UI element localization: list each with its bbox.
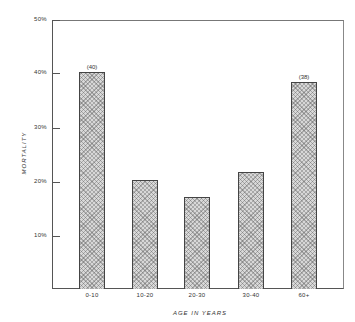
bar-annotation-0-10: (40) [77, 64, 107, 70]
bar-20-30 [184, 197, 210, 289]
ytick-30 [52, 128, 60, 129]
ytick-20 [52, 182, 60, 183]
xtick-label-10-20: 10-20 [125, 292, 165, 298]
ytick-label-10: 10% [17, 232, 47, 238]
x-axis-title: AGE IN YEARS [160, 310, 240, 316]
ytick-label-50: 50% [17, 16, 47, 22]
ytick-10 [52, 236, 60, 237]
bar-60-plus [291, 82, 317, 289]
bar-10-20 [132, 180, 158, 289]
bar-0-10 [79, 72, 105, 289]
xtick-label-30-40: 30-40 [231, 292, 271, 298]
xtick-label-0-10: 0-10 [72, 292, 112, 298]
bar-annotation-60-plus: (38) [289, 74, 319, 80]
y-axis-title: MORTALITY [21, 123, 27, 183]
ytick-40 [52, 73, 60, 74]
xtick-label-60-plus: 60+ [284, 292, 324, 298]
ytick-50 [52, 20, 60, 21]
ytick-label-40: 40% [17, 69, 47, 75]
xtick-label-20-30: 20-30 [177, 292, 217, 298]
bar-30-40 [238, 172, 264, 289]
